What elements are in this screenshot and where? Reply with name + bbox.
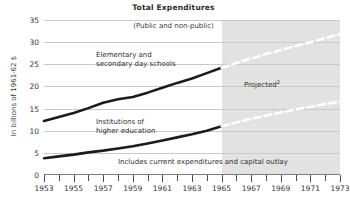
x-tick	[103, 175, 104, 182]
x-tick	[296, 175, 297, 181]
x-tick	[236, 175, 237, 181]
plot-area: 05101520253035 Elementary and secondary …	[44, 20, 340, 175]
x-tick	[192, 175, 193, 182]
x-tick	[118, 175, 119, 181]
x-tick-label: 1953	[34, 184, 53, 193]
y-tick-label: 5	[34, 148, 39, 157]
x-tick-label: 1963	[182, 184, 201, 193]
series-line-1	[222, 34, 340, 68]
annotation-projected-label: Projected2	[244, 78, 280, 90]
x-tick	[74, 175, 75, 182]
x-tick	[177, 175, 178, 181]
x-tick-label: 1973	[330, 184, 349, 193]
annotation-elementary-label: Elementary and secondary day schools	[96, 51, 176, 68]
x-tick-label: 1967	[242, 184, 261, 193]
x-tick-label: 1961	[153, 184, 172, 193]
x-tick	[251, 175, 252, 182]
x-tick-label: 1957	[94, 184, 113, 193]
y-tick-label: 15	[29, 104, 39, 113]
x-tick	[162, 175, 163, 182]
x-tick	[44, 175, 45, 182]
x-tick	[59, 175, 60, 181]
x-tick	[88, 175, 89, 181]
y-tick-label: 0	[34, 171, 39, 180]
x-tick-label: 1955	[64, 184, 83, 193]
series-line-0	[44, 68, 222, 121]
x-tick	[281, 175, 282, 182]
y-tick-label: 25	[29, 60, 39, 69]
y-tick-label: 10	[29, 126, 39, 135]
y-axis-label: In billions of 1961-62 $	[10, 36, 18, 156]
x-tick	[266, 175, 267, 181]
x-tick	[133, 175, 134, 182]
series-lines	[44, 20, 340, 175]
annotation-higher-ed-label: Institutions of higher education	[96, 118, 155, 135]
y-tick-label: 35	[29, 16, 39, 25]
x-tick	[310, 175, 311, 182]
annotation-footnote-note: Includes current expenditures and capita…	[118, 158, 288, 167]
x-axis-tick-labels: 1953195519571959196119631965196719691971…	[0, 184, 347, 198]
x-axis-ticks	[44, 175, 340, 183]
x-tick	[222, 175, 223, 182]
x-tick-label: 1959	[123, 184, 142, 193]
y-tick-label: 30	[29, 38, 39, 47]
x-tick	[148, 175, 149, 181]
y-tick-label: 20	[29, 82, 39, 91]
x-tick	[207, 175, 208, 181]
x-tick-label: 1971	[301, 184, 320, 193]
x-tick	[340, 175, 341, 182]
series-line-3	[222, 101, 340, 126]
x-tick-label: 1965	[212, 184, 231, 193]
footnote-marker: 2	[277, 79, 280, 85]
x-tick	[325, 175, 326, 181]
x-tick-label: 1969	[271, 184, 290, 193]
chart-title: Total Expenditures	[0, 3, 347, 12]
